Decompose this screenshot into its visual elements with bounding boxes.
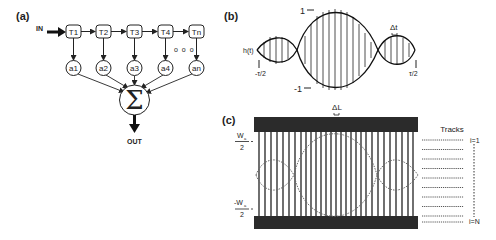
sample-spacing-bracket [392,33,397,35]
weight-label-n: an [192,64,201,73]
panel-a-fir-filter: (a) IN T1 T2 T3 T4 Tn o o o [16,10,204,145]
bottom-width-sub: a [244,203,247,208]
electrode-fingers [259,132,413,216]
weight-coefficients: a1 a2 a3 a4 an [66,61,204,76]
track-lines [422,140,464,222]
top-width-label: W a 2 [235,132,253,151]
electrode-spacing-bracket [334,113,339,115]
top-width-sub: a [244,136,247,141]
bottom-width-label: -W a 2 [234,199,253,218]
track-first-label: i=1 [470,137,480,144]
output-label: OUT [127,138,143,145]
weight-to-sum-arrow-n [146,74,192,93]
sigma-icon: Σ [125,85,143,115]
tap-label-4: T4 [161,28,171,37]
signal-label: h(t) [243,47,254,55]
figure: (a) IN T1 T2 T3 T4 Tn o o o [0,0,496,240]
input-label: IN [36,25,43,32]
tap-label-1: T1 [69,28,79,37]
tap-label-n: Tn [192,28,201,37]
panel-c-label: (c) [222,114,236,126]
weight-label-3: a3 [130,64,139,73]
min-label: -1 [294,84,302,94]
tap-delay-line: T1 T2 T3 T4 Tn [66,25,204,38]
bottom-bus-bar [254,216,418,229]
panel-b-impulse-response: (b) h(t) 1 -1 -τ/2 τ/2 Δt [224,6,418,94]
tap-label-3: T3 [130,28,140,37]
dotted-upper-envelope [256,134,418,175]
right-time-label: τ/2 [409,70,418,77]
bottom-width-den: 2 [240,211,244,218]
sample-lines [264,9,409,90]
sample-spacing-label: Δt [390,23,398,32]
weight-label-1: a1 [69,64,78,73]
bottom-width-num: -W [234,199,243,206]
dotted-lower-envelope [256,175,418,216]
top-bus-bar [254,117,418,132]
panel-b-label: (b) [224,10,238,22]
top-width-num: W [237,132,244,139]
tap-label-2: T2 [99,28,109,37]
panel-a-label: (a) [16,10,30,22]
track-last-label: i=N [469,218,480,225]
top-width-den: 2 [240,144,244,151]
weight-to-sum-arrow-1 [78,74,124,92]
left-time-label: -τ/2 [255,70,266,77]
tracks-title: Tracks [440,125,464,134]
weight-to-sum-arrow-4 [141,75,163,88]
weight-label-4: a4 [161,64,170,73]
output-arrow-head-icon [129,124,140,133]
panel-c-transducer-layout: (c) ΔL W a 2 -W a [222,103,480,229]
ellipsis-text: o o o [174,46,195,53]
electrode-spacing-label: ΔL [332,103,342,112]
weight-label-2: a2 [99,64,108,73]
max-label: 1 [300,6,305,16]
input-arrow-head-icon [58,27,66,37]
